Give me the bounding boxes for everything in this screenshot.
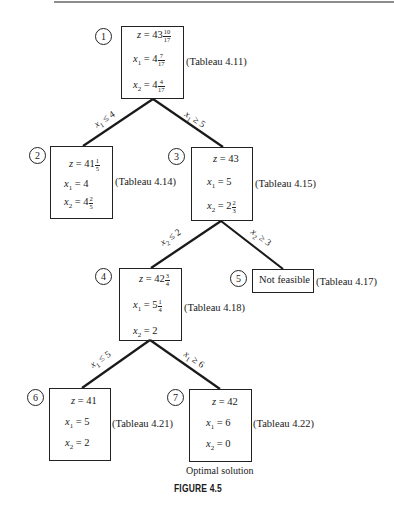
node-6-x2: x2 = 2 [65,437,90,451]
node-3-x2: x2 = 223 [207,200,236,214]
fraction: 34 [165,273,169,287]
node-7-x2: x2 = 0 [206,438,231,452]
node-5-tableau: (Tableau 4.17) [316,276,377,287]
fraction: 417 [158,79,165,93]
node-3-tableau: (Tableau 4.15) [255,178,316,189]
node-5-status: Not feasible [259,274,310,285]
node-6-x1: x1 = 5 [65,416,90,430]
node-number-5: 5 [230,270,247,287]
fraction: 15 [95,158,99,172]
figure-caption: FIGURE 4.5 [174,483,222,494]
node-number-3: 3 [168,148,185,165]
node-7-x1: x1 = 6 [206,417,231,431]
node-3-x1: x1 = 5 [207,176,232,190]
optimal-solution-label: Optimal solution [186,465,254,476]
node-1-x2: x2 = 4417 [133,79,165,93]
fraction: 25 [89,196,93,210]
node-number-7: 7 [167,389,184,406]
node-1-z: z = 431017 [137,29,171,43]
node-2-z: z = 4115 [69,158,100,172]
node-4-z: z = 4234 [139,273,170,287]
node-4-x1: x1 = 514 [133,299,162,313]
node-1-x1: x1 = 4717 [133,53,165,67]
node-4-x2: x2 = 2 [133,325,158,339]
node-6-z: z = 41 [71,395,97,406]
node-number-2: 2 [29,147,46,164]
fraction: 23 [232,200,236,214]
fraction: 717 [158,53,165,67]
node-2-x1: x1 = 4 [64,178,89,192]
node-1-tableau: (Tableau 4.11) [186,56,247,67]
node-3-z: z = 43 [213,153,239,164]
node-7-tableau: (Tableau 4.22) [253,418,314,429]
node-2-tableau: (Tableau 4.14) [115,176,176,187]
node-number-1: 1 [95,28,112,45]
node-2-x2: x2 = 425 [64,196,93,210]
fraction: 14 [158,299,162,313]
node-number-6: 6 [27,389,44,406]
edge-3-5 [221,221,283,269]
node-number-4: 4 [95,268,112,285]
node-6-tableau: (Tableau 4.21) [112,418,173,429]
edge-4-7 [150,340,220,389]
node-4-tableau: (Tableau 4.18) [184,302,245,313]
node-7-z: z = 42 [212,396,238,407]
fraction: 1017 [163,29,171,43]
